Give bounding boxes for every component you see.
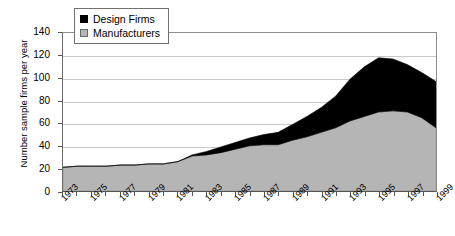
x-axis-tick-label: 1999 [434, 182, 455, 203]
y-axis-tick-label: 0 [6, 187, 50, 197]
legend-item-manufacturers: Manufacturers [80, 26, 160, 40]
legend-label-manufacturers: Manufacturers [93, 27, 160, 39]
gray-square-swatch-icon [80, 29, 88, 37]
y-axis-tick-label: 140 [6, 27, 50, 37]
y-axis-tick-label: 100 [6, 73, 50, 83]
x-axis-tick-mark [250, 192, 251, 196]
area-manufacturers [63, 111, 436, 191]
y-axis-tick-label: 80 [6, 96, 50, 106]
y-axis-tick-label: 40 [6, 141, 50, 151]
y-axis-tick-label: 60 [6, 118, 50, 128]
legend-item-design-firms: Design Firms [80, 12, 160, 26]
chart-legend: Design Firms Manufacturers [74, 8, 169, 44]
x-axis-tick-mark [192, 192, 193, 196]
y-axis-tick-label: 20 [6, 164, 50, 174]
area-series-group [63, 33, 436, 191]
x-axis-tick-mark [76, 192, 77, 196]
black-square-swatch-icon [80, 15, 88, 23]
legend-label-design-firms: Design Firms [93, 13, 155, 25]
x-axis-tick-mark [394, 192, 395, 196]
y-axis-tick-label: 120 [6, 50, 50, 60]
x-axis-tick-mark [365, 192, 366, 196]
x-axis-tick-mark [423, 192, 424, 196]
plot-area [62, 32, 437, 192]
x-axis-tick-mark [221, 192, 222, 196]
